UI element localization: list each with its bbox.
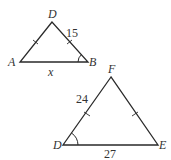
side-label-df: 24	[76, 92, 88, 106]
vertex-label-b: B	[89, 55, 97, 69]
side-label-de: 27	[104, 147, 116, 160]
vertex-label-e: E	[158, 138, 167, 152]
side-label-db: 15	[66, 26, 78, 40]
triangle-fde-edges	[63, 77, 158, 145]
triangle-dab: D A B 15 x	[7, 7, 97, 79]
vertex-label-a: A	[7, 55, 16, 69]
side-label-ab: x	[47, 65, 54, 79]
triangle-fde: F D E 24 27	[52, 62, 167, 160]
vertex-label-f: F	[107, 62, 116, 76]
angle-arc-d	[72, 133, 79, 145]
vertex-label-d1: D	[47, 7, 57, 21]
angle-arc-b	[78, 55, 82, 63]
diagram-canvas: D A B 15 x F D E 24 27	[0, 0, 171, 160]
vertex-label-d2: D	[52, 138, 62, 152]
